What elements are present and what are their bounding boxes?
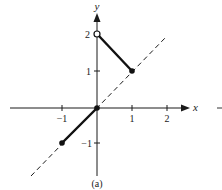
filled-point-origin — [94, 105, 100, 111]
y-tick-label-1: 1 — [86, 66, 91, 77]
x-axis-label: x — [192, 101, 198, 113]
y-tick-label-neg1: −1 — [81, 138, 92, 149]
x-tick-label-neg1: −1 — [57, 113, 68, 124]
y-axis-label: y — [94, 0, 100, 12]
open-point-0-2 — [94, 31, 100, 37]
x-axis: −1 1 2 x — [10, 101, 198, 124]
filled-point-1-1 — [129, 68, 135, 74]
x-tick-label-2: 2 — [165, 113, 170, 124]
segment-2 — [99, 36, 132, 71]
figure-caption: (a) — [91, 178, 102, 190]
x-axis-arrow-icon — [181, 105, 190, 112]
x-tick-label-1: 1 — [130, 113, 135, 124]
y-axis-arrow-icon — [94, 13, 101, 22]
y-tick-label-2: 2 — [85, 29, 90, 40]
filled-point-neg1-neg1 — [59, 140, 65, 146]
function-graph: −1 1 2 x 2 1 −1 y (a) — [0, 0, 222, 190]
y-axis: 2 1 −1 y — [81, 0, 100, 176]
